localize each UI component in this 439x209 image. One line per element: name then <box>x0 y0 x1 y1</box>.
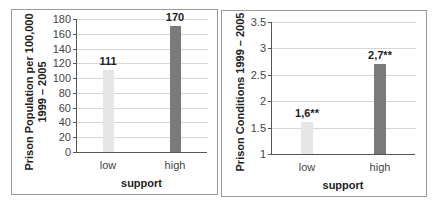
x-tick-label: low <box>88 160 128 171</box>
x-tick-label: high <box>155 160 195 171</box>
bar-high <box>170 26 181 152</box>
y-axis <box>76 19 77 152</box>
bar-value-label: 111 <box>83 56 133 67</box>
x-axis <box>271 154 415 155</box>
y-axis-title: Prison Population per 100,000 <box>23 2 35 182</box>
gridline <box>77 137 208 138</box>
bar-high <box>374 64 386 154</box>
x-axis-title: support <box>102 177 182 189</box>
x-axis <box>76 152 207 153</box>
gridline <box>272 22 416 23</box>
bar-value-label: 2,7** <box>355 50 405 61</box>
x-axis-title: support <box>303 179 383 191</box>
x-tick-label: low <box>287 162 327 173</box>
x-tick-label: high <box>360 162 400 173</box>
gridline <box>272 48 416 49</box>
gridline <box>272 128 416 129</box>
gridline <box>77 108 208 109</box>
gridline <box>77 78 208 79</box>
y-axis-title: 1999 – 2005 <box>36 2 48 182</box>
y-axis-title: Prison Conditions 1999 – 2005 <box>234 2 246 182</box>
y-axis <box>271 22 272 154</box>
gridline <box>272 101 416 102</box>
gridline <box>272 75 416 76</box>
bar-low <box>301 122 313 154</box>
gridline <box>77 93 208 94</box>
gridline <box>77 34 208 35</box>
gridline <box>77 49 208 50</box>
gridline <box>77 122 208 123</box>
bar-low <box>103 70 114 152</box>
bar-value-label: 170 <box>150 12 200 23</box>
bar-value-label: 1,6** <box>282 108 332 119</box>
